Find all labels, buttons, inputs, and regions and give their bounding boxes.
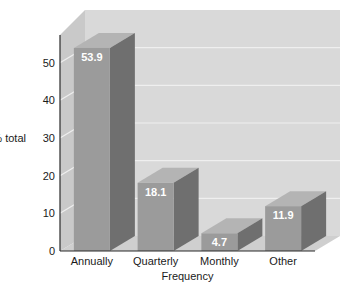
bar-quarterly: 18.1 — [138, 168, 199, 251]
x-category-label: Other — [269, 255, 297, 267]
x-category-label: Annually — [71, 255, 114, 267]
bar-chart: 53.918.14.711.9 01020304050 % total Annu… — [0, 0, 347, 286]
chart-svg: 53.918.14.711.9 01020304050 % total Annu… — [0, 0, 347, 286]
y-tick-label: 50 — [43, 57, 55, 69]
bar-front-face — [74, 48, 110, 251]
x-category-label: Monthly — [200, 255, 239, 267]
x-axis-title: Frequency — [162, 270, 214, 282]
bar-value-label: 11.9 — [273, 209, 294, 221]
bar-side-face — [110, 33, 135, 251]
bar-annually: 53.9 — [74, 33, 135, 251]
y-tick-label: 10 — [43, 207, 55, 219]
bar-value-label: 53.9 — [81, 51, 102, 63]
y-axis-title: % total — [0, 132, 26, 144]
x-category-label: Quarterly — [133, 255, 179, 267]
y-tick-label: 30 — [43, 132, 55, 144]
x-axis-category-labels: AnnuallyQuarterlyMonthlyOther — [71, 255, 297, 267]
bar-value-label: 18.1 — [145, 186, 166, 198]
y-tick-label: 20 — [43, 170, 55, 182]
bar-value-label: 4.7 — [212, 236, 227, 248]
y-axis-tick-labels: 01020304050 — [43, 57, 55, 257]
y-tick-label: 40 — [43, 94, 55, 106]
y-tick-label: 0 — [49, 245, 55, 257]
